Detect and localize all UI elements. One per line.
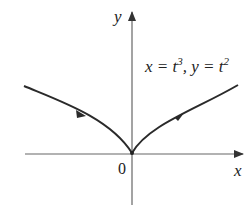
- curve-left-branch: [24, 86, 132, 153]
- y-axis-label: y: [112, 7, 122, 26]
- curve-right-branch: [132, 85, 238, 153]
- equation-label: x = t3, y = t2: [144, 55, 230, 76]
- origin-point: [130, 151, 134, 155]
- parametric-diagram: y x 0 x = t3, y = t2: [0, 0, 252, 211]
- x-axis-label: x: [233, 161, 242, 180]
- origin-label: 0: [118, 160, 126, 177]
